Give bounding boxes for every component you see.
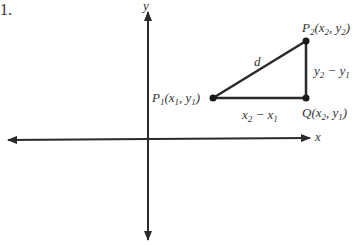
segment-d xyxy=(213,41,306,98)
vertical-diff-label: y2 − y1 xyxy=(314,64,350,80)
horizontal-diff-label: x2 − x1 xyxy=(242,108,278,124)
x-axis-right xyxy=(148,138,310,139)
y-axis-label: y xyxy=(143,0,149,12)
p2-label: P2(x2, y2) xyxy=(302,21,350,37)
hypotenuse-label: d xyxy=(254,55,261,68)
point-p1 xyxy=(210,95,217,102)
x-axis-label: x xyxy=(315,130,321,143)
p1-label: P1(x1, y1) xyxy=(152,91,200,107)
point-p2 xyxy=(303,38,310,45)
point-q xyxy=(303,95,310,102)
q-label: Q(x2, y1) xyxy=(302,106,347,122)
coordinate-diagram xyxy=(0,0,354,245)
figure-number: 1. xyxy=(0,2,12,18)
x-axis xyxy=(8,139,148,140)
